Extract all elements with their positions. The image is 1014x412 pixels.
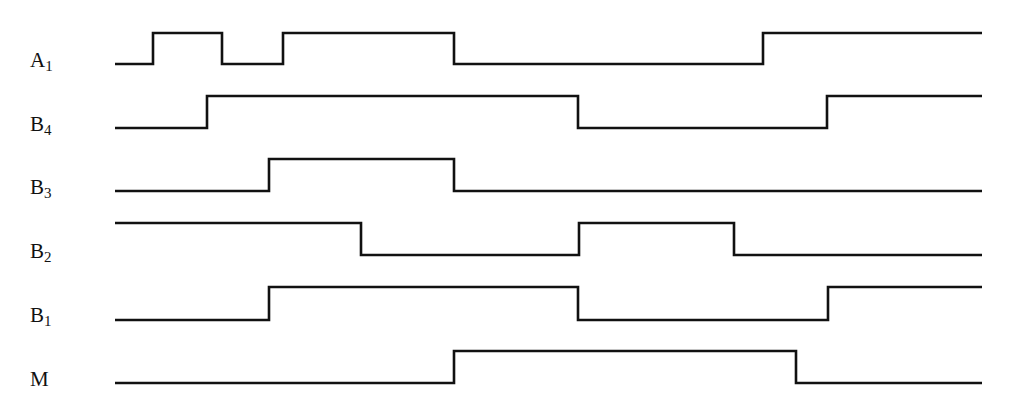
waveform-b2: [115, 223, 982, 255]
waveform-a1: [115, 33, 982, 64]
waveform-b3: [115, 159, 982, 191]
waveform-b4: [115, 96, 982, 128]
timing-diagram: A1 B4 B3 B2 B1 M: [0, 0, 1014, 412]
waveforms: [0, 0, 1014, 412]
waveform-m: [115, 351, 982, 383]
waveform-b1: [115, 287, 982, 320]
